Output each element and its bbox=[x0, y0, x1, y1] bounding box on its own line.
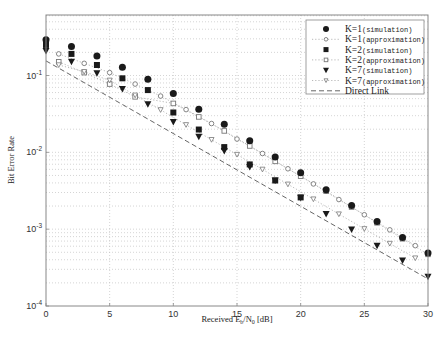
y-tick-label: 10-3 bbox=[26, 222, 42, 234]
x-tick-label: 20 bbox=[296, 309, 306, 319]
legend-label: K=2(simulation) bbox=[345, 45, 412, 55]
ber-chart: 051015202530 10-110-210-310-4 Received E… bbox=[0, 0, 448, 341]
y-tick-label: 10-2 bbox=[26, 145, 42, 157]
x-tick-label: 25 bbox=[359, 309, 369, 319]
x-tick-label: 0 bbox=[43, 309, 48, 319]
legend-label: K=1(approximation) bbox=[345, 34, 425, 44]
legend-label: K=1(simulation) bbox=[345, 24, 412, 34]
legend-label: K=2(approximation) bbox=[345, 55, 425, 65]
legend-label: K=7(simulation) bbox=[345, 65, 412, 75]
x-tick-label: 10 bbox=[168, 309, 178, 319]
y-tick-label: 10-1 bbox=[26, 69, 42, 81]
legend: K=1(simulation)K=1(approximation)K=2(sim… bbox=[306, 20, 425, 96]
x-tick-label: 30 bbox=[423, 309, 433, 319]
x-axis-label: Received Eb/N0 [dB] bbox=[201, 314, 272, 325]
x-tick-label: 5 bbox=[107, 309, 112, 319]
legend-label: Direct Link bbox=[345, 86, 389, 96]
legend-label: K=7(approximation) bbox=[345, 76, 425, 86]
y-tick-label: 10-4 bbox=[26, 299, 42, 311]
y-axis-label: Bit Error Rate bbox=[6, 136, 16, 184]
